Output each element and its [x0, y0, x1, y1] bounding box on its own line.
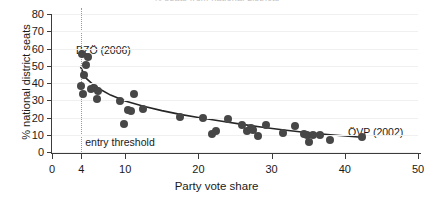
data-point	[224, 115, 232, 123]
data-point	[93, 95, 101, 103]
x-tick-mark	[52, 154, 53, 159]
gridline	[52, 66, 418, 67]
y-tick-label: 70	[24, 26, 44, 37]
y-tick-label: 0	[24, 147, 44, 158]
y-tick-label: 30	[24, 95, 44, 106]
x-tick-mark	[272, 154, 273, 159]
x-tick-mark	[418, 154, 419, 159]
entry-threshold-label: entry threshold	[85, 136, 154, 148]
x-tick-label: 4	[68, 164, 94, 175]
x-tick-label: 0	[39, 164, 65, 175]
gridline	[52, 14, 418, 15]
y-tick-mark	[47, 152, 52, 153]
x-axis-title: Party vote share	[0, 180, 433, 192]
y-tick-mark	[47, 66, 52, 67]
y-tick-mark	[47, 83, 52, 84]
y-tick-mark	[47, 118, 52, 119]
x-axis-tick-labels: 041020304050	[0, 160, 433, 180]
x-axis-line	[51, 153, 421, 154]
data-point	[176, 113, 184, 121]
y-tick-label: 20	[24, 113, 44, 124]
y-tick-label: 10	[24, 130, 44, 141]
x-tick-mark	[125, 154, 126, 159]
y-tick-mark	[47, 135, 52, 136]
x-tick-label: 50	[405, 164, 431, 175]
x-tick-mark	[198, 154, 199, 159]
data-point	[82, 61, 90, 69]
chart-title: % seats from national districts	[0, 0, 433, 1]
data-point	[279, 129, 287, 137]
data-point	[262, 121, 270, 129]
data-point	[305, 138, 313, 146]
ovp-annotation-label: ÖVP (2002)	[348, 126, 403, 138]
y-tick-mark	[47, 14, 52, 15]
x-tick-label: 30	[259, 164, 285, 175]
gridline	[52, 100, 418, 101]
x-tick-mark	[345, 154, 346, 159]
y-tick-label: 80	[24, 9, 44, 20]
gridline	[52, 83, 418, 84]
x-tick-mark	[81, 154, 82, 159]
x-tick-label: 20	[185, 164, 211, 175]
data-point	[84, 53, 92, 61]
y-tick-mark	[47, 31, 52, 32]
data-point	[139, 105, 147, 113]
y-tick-label: 40	[24, 78, 44, 89]
y-axis-line	[51, 14, 52, 154]
data-point	[120, 120, 128, 128]
data-point	[358, 133, 366, 141]
y-tick-label: 60	[24, 44, 44, 55]
data-point	[316, 131, 324, 139]
x-tick-label: 10	[112, 164, 138, 175]
y-tick-mark	[47, 49, 52, 50]
data-point	[254, 132, 262, 140]
y-tick-label: 50	[24, 61, 44, 72]
y-tick-mark	[47, 100, 52, 101]
plot-area: entry threshold BZÖ (2006) ÖVP (2002)	[52, 14, 418, 152]
gridline	[52, 49, 418, 50]
gridline	[52, 118, 418, 119]
chart-figure: % seats from national districts % nation…	[0, 0, 433, 202]
gridline	[52, 31, 418, 32]
x-tick-label: 40	[332, 164, 358, 175]
data-point	[94, 87, 102, 95]
